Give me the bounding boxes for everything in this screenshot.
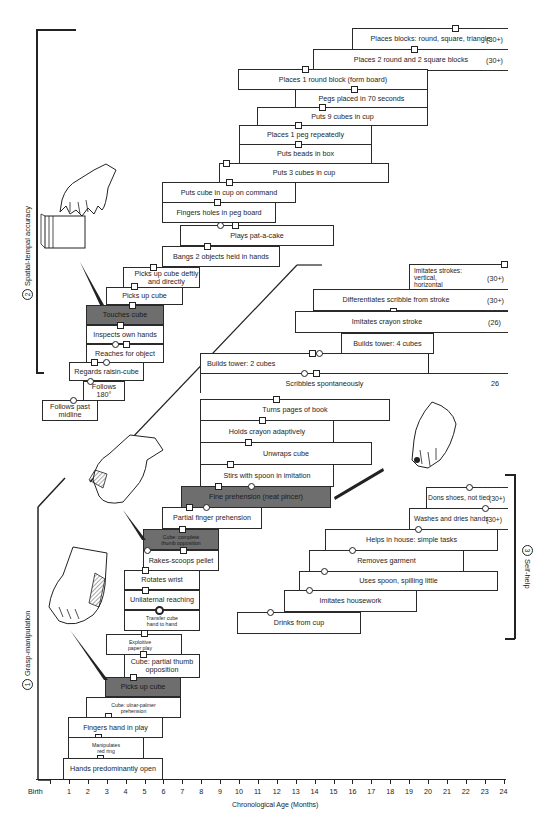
x-axis-tick: [447, 779, 448, 784]
x-axis-tick-label: 2: [86, 787, 90, 796]
x-axis-tick: [69, 779, 70, 784]
x-axis-tick-label: 6: [161, 787, 165, 796]
x-axis-tick-label: 24: [500, 787, 508, 796]
x-axis-tick-label: 4: [124, 787, 128, 796]
x-axis-tick-label: 12: [273, 787, 281, 796]
x-axis-tick: [107, 779, 108, 784]
x-axis-tick: [145, 779, 146, 784]
x-axis-tick: [201, 779, 202, 784]
x-axis-tick-label: 19: [405, 787, 413, 796]
x-axis-tick: [409, 779, 410, 784]
x-axis-tick: [315, 779, 316, 784]
x-axis-tick-label: 7: [180, 787, 184, 796]
x-axis-tick-label: 3: [105, 787, 109, 796]
x-axis-tick: [126, 779, 127, 784]
x-axis-tick: [277, 779, 278, 784]
hand-pincer-illustration: [392, 400, 462, 480]
x-axis-tick-label: 11: [254, 787, 261, 796]
x-axis-tick: [485, 779, 486, 784]
x-axis-tick-label: Birth: [28, 787, 43, 796]
x-axis-tick: [390, 779, 391, 784]
x-axis-tick-label: 10: [235, 787, 243, 796]
x-axis-tick-label: 15: [330, 787, 338, 796]
x-axis-tick: [182, 779, 183, 784]
x-axis-tick-label: 9: [218, 787, 222, 796]
x-axis-tick-label: 13: [292, 787, 300, 796]
hand-ulnar-grasp-illustration: [45, 545, 115, 635]
x-axis-tick-label: 23: [481, 787, 489, 796]
x-axis-tick: [334, 779, 335, 784]
x-axis-tick: [50, 779, 51, 784]
x-axis-tick-label: 1: [67, 787, 71, 796]
x-axis-tick: [239, 779, 240, 784]
x-axis-tick-label: 16: [348, 787, 356, 796]
x-axis-tick-label: 21: [443, 787, 451, 796]
x-axis-tick-label: 5: [143, 787, 147, 796]
x-axis-tick-label: 8: [199, 787, 203, 796]
x-axis-tick: [258, 779, 259, 784]
pointer-line: [0, 0, 546, 825]
x-axis-tick-label: 14: [311, 787, 319, 796]
x-axis-tick: [428, 779, 429, 784]
x-axis-tick: [371, 779, 372, 784]
x-axis-tick: [504, 779, 505, 784]
hand-holding-cube-illustration: [85, 430, 165, 510]
x-axis-tick: [466, 779, 467, 784]
x-axis-tick: [296, 779, 297, 784]
x-axis-tick: [220, 779, 221, 784]
x-axis-tick-label: 17: [367, 787, 375, 796]
x-axis-tick-label: 18: [386, 787, 394, 796]
x-axis-tick: [88, 779, 89, 784]
x-axis-tick: [352, 779, 353, 784]
x-axis-tick-label: 20: [424, 787, 432, 796]
x-axis-title: Chronological Age (Months): [232, 801, 318, 808]
x-axis-tick: [163, 779, 164, 784]
x-axis-tick-label: 22: [462, 787, 470, 796]
